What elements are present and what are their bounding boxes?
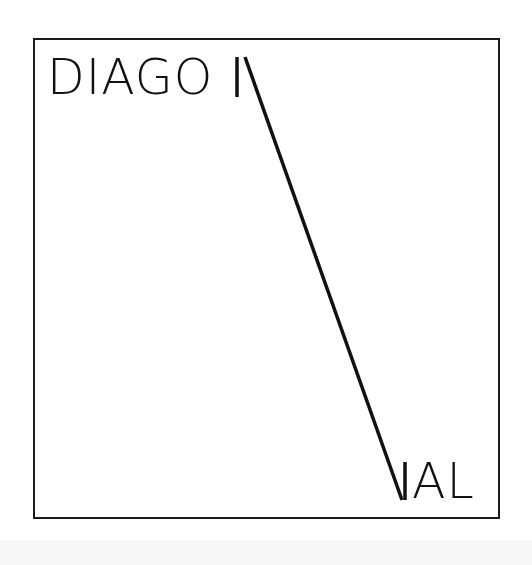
bottom-band [0, 540, 532, 565]
square-frame [33, 38, 500, 519]
word-end: AL [412, 457, 475, 506]
artwork-canvas: DIAGO AL [0, 0, 532, 565]
word-start: DIAGO [47, 53, 213, 102]
